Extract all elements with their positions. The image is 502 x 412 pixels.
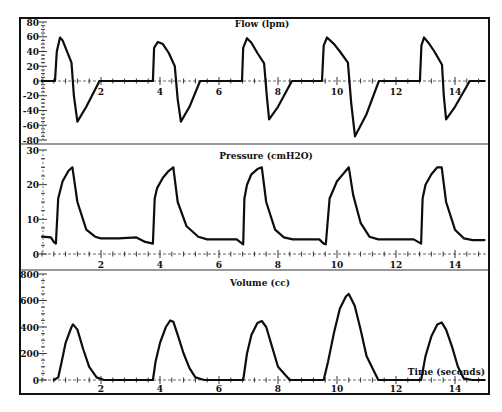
y-tick-label: 0 bbox=[33, 250, 39, 260]
chart-frame bbox=[20, 18, 489, 394]
y-tick-label: -60 bbox=[23, 121, 39, 131]
y-tick-label: 800 bbox=[20, 270, 39, 280]
y-tick-label: 200 bbox=[20, 349, 39, 359]
x-tick-label: 8 bbox=[275, 384, 281, 394]
x-tick-label: 2 bbox=[98, 384, 104, 394]
x-tick-label: 14 bbox=[449, 260, 462, 270]
y-tick-label: 0 bbox=[33, 376, 39, 386]
x-tick-label: 6 bbox=[216, 87, 222, 97]
x-tick-label: 8 bbox=[275, 87, 281, 97]
pressure-trace bbox=[42, 167, 485, 244]
y-tick-label: 10 bbox=[26, 215, 39, 225]
y-tick-label: 20 bbox=[26, 62, 39, 72]
x-tick-label: 12 bbox=[390, 87, 403, 97]
volume-panel: Volume (cc) Time (seconds) 8006004002000… bbox=[20, 270, 487, 395]
x-tick-label: 4 bbox=[157, 87, 163, 97]
outer-frame bbox=[20, 18, 489, 394]
x-tick-label: 10 bbox=[331, 87, 344, 97]
y-tick-label: 60 bbox=[26, 32, 39, 42]
y-tick-label: 600 bbox=[20, 296, 39, 306]
ventilator-waveform-chart: Flow (lpm) 806040200-20-40-60-8024681012… bbox=[0, 0, 502, 412]
volume-panel-title: Volume (cc) bbox=[229, 278, 290, 288]
x-tick-label: 12 bbox=[390, 384, 403, 394]
y-tick-label: 0 bbox=[33, 77, 39, 87]
y-tick-label: 80 bbox=[26, 18, 39, 28]
flow-panel: Flow (lpm) 806040200-20-40-60-8024681012… bbox=[23, 18, 487, 146]
x-tick-label: 8 bbox=[275, 260, 281, 270]
x-tick-label: 12 bbox=[390, 260, 403, 270]
pressure-panel-title: Pressure (cmH2O) bbox=[219, 151, 313, 161]
y-tick-label: 40 bbox=[26, 47, 39, 57]
y-tick-label: 20 bbox=[26, 180, 39, 190]
x-tick-label: 10 bbox=[331, 260, 344, 270]
x-axis-label: Time (seconds) bbox=[408, 367, 485, 377]
x-tick-label: 14 bbox=[449, 87, 462, 97]
y-tick-label: -40 bbox=[23, 106, 39, 116]
flow-trace bbox=[42, 38, 485, 137]
y-tick-label: 30 bbox=[26, 146, 39, 156]
x-tick-label: 10 bbox=[331, 384, 344, 394]
x-tick-label: 14 bbox=[449, 384, 462, 394]
pressure-panel: Pressure (cmH2O) 30201002468101214 bbox=[26, 146, 487, 271]
x-tick-label: 6 bbox=[216, 384, 222, 394]
y-tick-label: -20 bbox=[23, 91, 39, 101]
x-tick-label: 6 bbox=[216, 260, 222, 270]
flow-panel-title: Flow (lpm) bbox=[235, 19, 289, 29]
y-tick-label: 400 bbox=[20, 323, 39, 333]
x-tick-label: 4 bbox=[157, 384, 163, 394]
x-tick-label: 4 bbox=[157, 260, 163, 270]
y-tick-label: -80 bbox=[23, 136, 39, 146]
x-tick-label: 2 bbox=[98, 87, 104, 97]
x-tick-label: 2 bbox=[98, 260, 104, 270]
